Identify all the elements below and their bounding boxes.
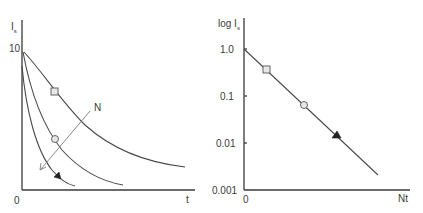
triangle-marker [332, 131, 341, 138]
curve-medium-n [23, 52, 123, 185]
square-marker [51, 88, 58, 95]
right-y-tick-0-001: 0.001 [212, 185, 237, 196]
left-y-label: Is [11, 21, 17, 34]
curve-small-n [24, 52, 185, 167]
figure: Is 10 0 t N log Is 1.0 0.1 0.01 0.001 0 … [0, 0, 423, 213]
right-y-label: log Is [218, 18, 240, 31]
right-y-tick-0-1: 0.1 [220, 91, 234, 102]
square-marker [263, 66, 270, 73]
right-origin-label: 0 [243, 194, 249, 205]
circle-marker [301, 102, 308, 109]
right-y-tick-1-0: 1.0 [220, 44, 234, 55]
right-chart: log Is 1.0 0.1 0.01 0.001 0 Nt [212, 18, 410, 205]
left-chart: Is 10 0 t N [9, 20, 195, 206]
n-arrow-label: N [94, 102, 101, 113]
left-y-tick-10: 10 [9, 43, 21, 54]
right-x-label: Nt [398, 193, 408, 204]
left-origin-label: 0 [14, 195, 20, 206]
right-y-tick-0-01: 0.01 [216, 138, 236, 149]
n-arrow [41, 111, 90, 169]
left-x-label: t [186, 194, 189, 205]
circle-marker [52, 136, 59, 143]
